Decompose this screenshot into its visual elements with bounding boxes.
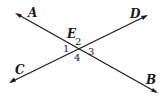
label-point-a: A — [27, 6, 37, 20]
arrowhead-b-icon — [151, 88, 158, 93]
line-cd — [11, 16, 146, 82]
intersecting-lines-diagram: A D C B E 2 1 3 4 — [0, 0, 162, 103]
label-angle-4: 4 — [74, 52, 80, 63]
arrowhead-c-icon — [9, 78, 16, 84]
label-point-c: C — [15, 63, 25, 77]
label-point-d: D — [129, 7, 141, 21]
label-angle-2: 2 — [75, 36, 81, 47]
label-angle-1: 1 — [63, 43, 69, 54]
arrowhead-d-icon — [141, 15, 148, 20]
label-point-b: B — [145, 73, 156, 87]
label-angle-3: 3 — [88, 46, 94, 57]
line-ab — [17, 14, 156, 92]
arrowhead-a-icon — [15, 13, 22, 18]
